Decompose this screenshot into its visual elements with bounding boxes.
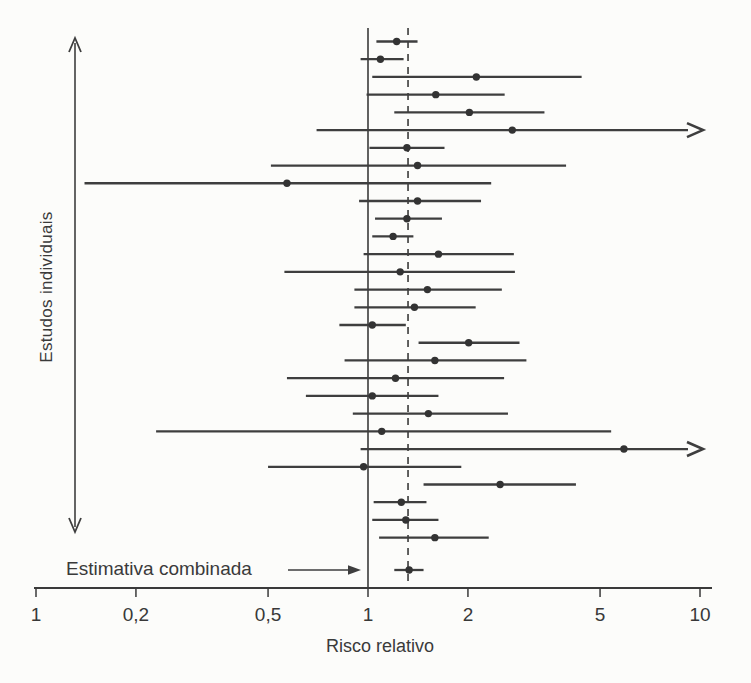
plot-area: 10,20,512510: [0, 0, 751, 683]
forest-plot-figure: 10,20,512510 Estudos individuais Estimat…: [0, 0, 751, 683]
study-point: [369, 392, 376, 399]
study-point: [398, 499, 405, 506]
x-axis-tick-label: 0,5: [255, 604, 281, 625]
combined-estimate-label: Estimativa combinada: [66, 558, 252, 580]
study-point: [369, 321, 376, 328]
study-point: [425, 410, 432, 417]
study-point: [435, 250, 442, 257]
x-axis-tick-label: 2: [463, 604, 474, 625]
study-point: [402, 516, 409, 523]
arrow-right-icon: [687, 442, 703, 456]
arrow-right-icon: [687, 123, 703, 137]
x-axis-tick-label: 1: [31, 604, 42, 625]
study-point: [411, 304, 418, 311]
study-point: [392, 374, 399, 381]
study-point: [283, 180, 290, 187]
study-point: [377, 56, 384, 63]
study-point: [378, 428, 385, 435]
study-point: [403, 215, 410, 222]
x-axis-tick-label: 5: [595, 604, 606, 625]
study-point: [360, 463, 367, 470]
study-point: [424, 286, 431, 293]
study-point: [620, 445, 627, 452]
combined-label-arrowhead-icon: [348, 565, 361, 575]
x-axis-tick-label: 10: [689, 604, 710, 625]
study-point: [396, 268, 403, 275]
combined-point: [405, 566, 412, 573]
x-axis-tick-label: 0,2: [123, 604, 149, 625]
study-point: [466, 109, 473, 116]
study-point: [414, 162, 421, 169]
study-point: [431, 357, 438, 364]
study-point: [414, 197, 421, 204]
study-point: [403, 144, 410, 151]
study-point: [432, 91, 439, 98]
x-axis-title: Risco relativo: [280, 636, 480, 657]
study-point: [509, 126, 516, 133]
study-point: [389, 233, 396, 240]
study-point: [496, 481, 503, 488]
study-point: [465, 339, 472, 346]
y-axis-label: Estudos individuais: [37, 202, 57, 372]
study-point: [431, 534, 438, 541]
study-point: [393, 38, 400, 45]
study-point: [473, 73, 480, 80]
x-axis-tick-label: 1: [363, 604, 374, 625]
